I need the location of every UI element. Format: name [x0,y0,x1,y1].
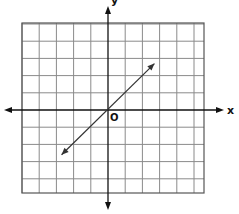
axes [4,6,224,210]
grid [22,23,204,193]
y-axis-label: y [111,0,118,7]
x-axis-label: x [227,104,234,117]
origin-label: O [110,112,119,123]
coordinate-plane: x y O [0,0,239,214]
x-axis-right-arrow-icon [216,107,224,113]
x-axis-left-arrow-icon [4,107,12,113]
y-axis-down-arrow-icon [105,202,111,210]
y-axis-up-arrow-icon [105,6,111,14]
